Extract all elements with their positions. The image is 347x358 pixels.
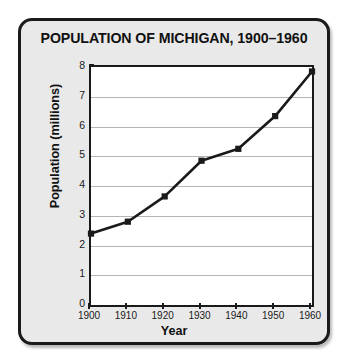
data-point-marker — [235, 146, 241, 152]
plot-area — [89, 65, 314, 307]
y-axis-tick-label: 0 — [67, 298, 85, 309]
x-axis-tick-label: 1960 — [290, 311, 330, 321]
x-axis-tick-label: 1950 — [253, 311, 293, 321]
y-axis-tick-label: 6 — [67, 119, 85, 130]
data-point-marker — [88, 231, 94, 237]
x-axis-tick-label: 1900 — [69, 311, 109, 321]
data-point-marker — [309, 68, 315, 74]
data-point-marker — [272, 113, 278, 119]
data-point-marker — [198, 158, 204, 164]
x-axis-tick-label: 1930 — [180, 311, 220, 321]
y-axis-tick-label: 5 — [67, 149, 85, 160]
data-point-marker — [162, 193, 168, 199]
y-axis-tick-labels: 012345678 — [65, 65, 85, 303]
x-axis-title: Year — [21, 324, 327, 338]
x-axis-tick-mark — [309, 303, 311, 309]
x-axis-tick-label: 1920 — [143, 311, 183, 321]
x-axis-tick-label: 1910 — [106, 311, 146, 321]
x-axis-tick-mark — [272, 303, 274, 309]
data-point-marker — [125, 219, 131, 225]
x-axis-tick-label: 1940 — [216, 311, 256, 321]
x-axis-tick-mark — [88, 303, 90, 309]
y-axis-tick-label: 7 — [67, 90, 85, 101]
x-axis-tick-mark — [235, 303, 237, 309]
x-axis-tick-mark — [125, 303, 127, 309]
x-axis-tick-mark — [162, 303, 164, 309]
x-axis-tick-labels: 1900191019201930194019501960 — [89, 311, 310, 325]
y-axis-tick-label: 4 — [67, 179, 85, 190]
y-axis-tick-label: 1 — [67, 268, 85, 279]
chart-card: POPULATION OF MICHIGAN, 1900–1960 Popula… — [18, 18, 330, 345]
y-axis-tick-label: 3 — [67, 209, 85, 220]
x-axis-tick-mark — [199, 303, 201, 309]
y-axis-tick-label: 8 — [67, 60, 85, 71]
y-axis-title: Population (millions) — [48, 46, 62, 246]
population-line-series — [91, 67, 312, 305]
chart-title: POPULATION OF MICHIGAN, 1900–1960 — [21, 30, 327, 46]
y-axis-tick-label: 2 — [67, 238, 85, 249]
